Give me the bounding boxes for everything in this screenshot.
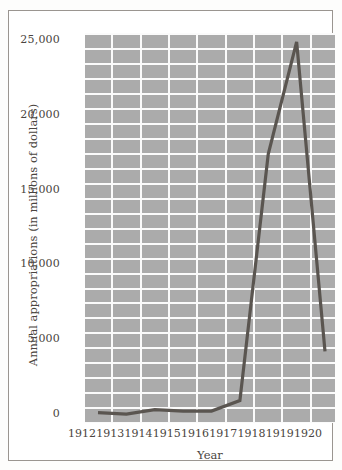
y-tick-label: 0 xyxy=(53,408,60,419)
figure-frame: 25,000 20,000 15,000 10,000 5,000 0 Annu… xyxy=(8,10,333,461)
x-axis-title: Year xyxy=(85,448,335,462)
y-tick-label: 25,000 xyxy=(20,34,60,45)
data-line-series xyxy=(85,33,335,423)
y-axis-title: Annual appropriations (in millions of do… xyxy=(26,85,40,385)
plot-area xyxy=(85,33,335,423)
x-tick-label: 1920 xyxy=(291,428,325,440)
chart-figure: 25,000 20,000 15,000 10,000 5,000 0 Annu… xyxy=(0,0,342,470)
